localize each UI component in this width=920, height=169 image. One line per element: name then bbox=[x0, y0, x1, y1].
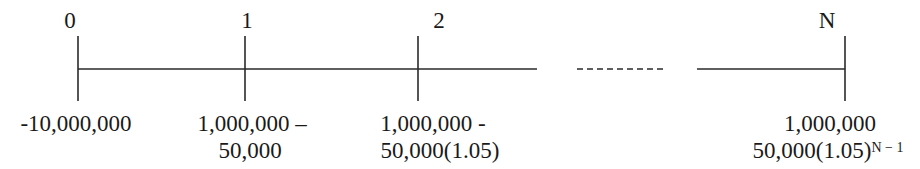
cash-flow-n-exponent: N − 1 bbox=[871, 140, 903, 155]
cash-flow-2-line2: 50,000(1.05) bbox=[381, 138, 500, 164]
period-label-0: 0 bbox=[64, 8, 76, 34]
cash-flow-n-line1: 1,000,000 bbox=[784, 111, 876, 137]
cash-flow-diagram: 0 1 2 N -10,000,000 1,000,000 – 50,000 1… bbox=[0, 0, 920, 169]
cash-flow-2-line1: 1,000,000 - bbox=[380, 111, 485, 137]
cash-flow-1-line2: 50,000 bbox=[218, 138, 281, 164]
period-label-1: 1 bbox=[241, 8, 253, 34]
cash-flow-n-line2: 50,000(1.05)N − 1 bbox=[753, 138, 904, 164]
cash-flow-1-line1: 1,000,000 – bbox=[197, 111, 306, 137]
cash-flow-0: -10,000,000 bbox=[20, 111, 131, 137]
period-label-2: 2 bbox=[433, 8, 445, 34]
cash-flow-n-base: 50,000(1.05) bbox=[753, 138, 872, 163]
period-label-n: N bbox=[819, 8, 836, 34]
